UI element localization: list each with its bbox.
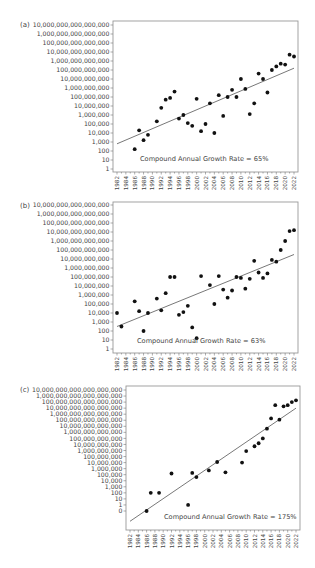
data-point [190, 326, 194, 330]
y-tick-label: 1 [106, 345, 110, 352]
x-tick-label: 2010 [238, 176, 244, 191]
panel-b: (b) 10,000,000,000,000,0001,000,000,000,… [0, 190, 315, 380]
x-tick-label: 2004 [218, 534, 224, 549]
data-point [186, 121, 190, 125]
x-tick-label: 1990 [149, 176, 155, 191]
data-point [186, 304, 190, 308]
data-point [274, 260, 278, 264]
data-point [253, 444, 257, 448]
y-tick-label: 10,000,000,000,000 [47, 228, 110, 235]
x-tick-label: 1984 [135, 534, 141, 549]
data-point [226, 95, 230, 99]
data-point [212, 302, 216, 306]
y-tick-label: 0 [119, 507, 123, 514]
data-point [244, 449, 248, 453]
data-point [221, 114, 225, 118]
y-tick-label: 1,000 [92, 318, 110, 325]
x-tick-label: 2016 [264, 176, 270, 191]
y-tick-label: 100,000,000,000,000 [43, 39, 110, 46]
y-tick-label: 100,000 [84, 120, 110, 127]
panel-c: (c) 10,000,000,000,000,000,0001,000,000,… [0, 380, 315, 568]
data-point [273, 403, 277, 407]
data-point [217, 93, 221, 97]
data-point [239, 276, 243, 280]
data-point [137, 309, 141, 313]
x-tick-label: 2018 [273, 176, 279, 191]
data-point [274, 65, 278, 69]
data-point [208, 101, 212, 105]
data-point [252, 259, 256, 263]
x-tick-label: 1992 [169, 534, 175, 548]
data-point [248, 277, 252, 281]
data-point [235, 95, 239, 99]
plot-frame [126, 386, 300, 530]
data-point [248, 112, 252, 116]
x-tick-label: 1998 [185, 357, 191, 372]
data-point [266, 272, 270, 276]
data-point [199, 274, 203, 278]
data-point [177, 313, 181, 317]
data-point [133, 299, 137, 303]
data-point [279, 248, 283, 252]
data-point [115, 311, 119, 315]
x-tick-label: 2004 [211, 357, 217, 372]
trend-line [130, 408, 296, 521]
y-tick-label: 10,000 [88, 129, 110, 136]
data-point [190, 471, 194, 475]
cagr-annotation: Compound Annual Growth Rate = 63% [137, 337, 265, 345]
x-tick-label: 1996 [176, 176, 182, 191]
data-point [239, 77, 243, 81]
data-point [252, 101, 256, 105]
data-point [269, 417, 273, 421]
x-tick-label: 2008 [235, 534, 241, 549]
data-point [146, 311, 150, 315]
data-point [168, 275, 172, 279]
x-tick-label: 2004 [211, 176, 217, 191]
x-tick-label: 1982 [114, 176, 120, 190]
x-tick-label: 1982 [127, 534, 133, 548]
x-tick-label: 2008 [229, 357, 235, 372]
data-point [279, 62, 283, 66]
y-tick-label: 10 [102, 336, 110, 343]
data-point [137, 128, 141, 132]
cagr-annotation: Compound Annual Growth Rate = 175% [164, 513, 297, 521]
data-point [181, 310, 185, 314]
data-point [164, 98, 168, 102]
data-point [294, 398, 298, 402]
data-point [283, 63, 287, 67]
data-point [230, 88, 234, 92]
data-point [120, 325, 124, 329]
x-tick-label: 2002 [210, 534, 216, 548]
y-tick-label: 10 [102, 156, 110, 163]
data-point [142, 329, 146, 333]
y-tick-label: 100,000,000,000 [56, 66, 109, 73]
y-tick-label: 100,000,000 [70, 273, 109, 280]
data-point [265, 427, 269, 431]
data-point [195, 475, 199, 479]
x-tick-label: 1994 [167, 357, 173, 372]
y-tick-label: 1,000,000 [78, 291, 110, 298]
x-tick-label: 1988 [152, 534, 158, 549]
data-point [159, 106, 163, 110]
data-point [286, 403, 290, 407]
data-point [146, 133, 150, 137]
y-tick-label: 100,000,000,000 [56, 246, 109, 253]
y-tick-label: 10,000,000,000,000 [47, 48, 110, 55]
x-tick-label: 1994 [177, 534, 183, 549]
y-tick-label: 100 [98, 327, 110, 334]
data-point [292, 228, 296, 232]
data-point [224, 470, 228, 474]
x-tick-label: 2014 [260, 534, 266, 549]
data-point [270, 68, 274, 72]
x-tick-label: 1996 [176, 357, 182, 372]
y-tick-label: 100,000,000 [70, 93, 109, 100]
x-tick-label: 2016 [268, 534, 274, 549]
y-tick-label: 1,000 [92, 138, 110, 145]
x-tick-label: 1988 [141, 357, 147, 372]
x-tick-label: 2022 [291, 176, 297, 190]
data-point [168, 96, 172, 100]
data-point [177, 117, 181, 121]
x-tick-label: 2020 [285, 534, 291, 549]
data-point [133, 147, 137, 151]
data-point [173, 275, 177, 279]
